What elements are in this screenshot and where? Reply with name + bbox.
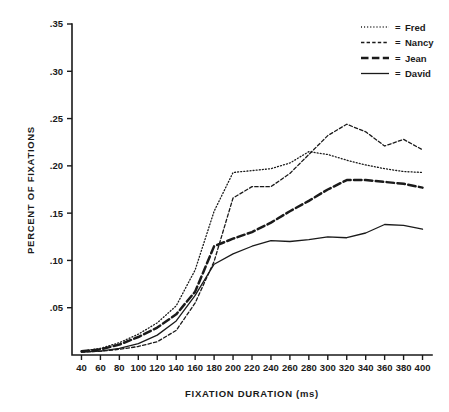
x-tick-label: 120 [149,362,165,373]
legend-equals-sign: = [395,68,401,79]
chart-legend: =Fred=Nancy=Jean=David [361,22,434,80]
y-tick-label: .15 [50,208,64,219]
y-tick-label: .20 [50,160,63,171]
legend-equals-sign: = [395,22,401,33]
y-tick-label: .25 [50,113,64,124]
x-tick-label: 200 [225,362,241,373]
chart-series-group [81,124,422,352]
x-tick-label: 260 [282,362,298,373]
legend-item-jean[interactable]: =Jean [361,53,427,64]
legend-item-fred[interactable]: =Fred [361,22,426,33]
legend-label-text: Jean [405,53,427,64]
x-tick-label: 400 [415,362,431,373]
fixation-duration-chart: .05.10.15.20.25.30.35 406080100120140160… [0,0,449,412]
series-line-david [81,224,422,352]
y-tick-label: .05 [50,302,64,313]
y-axis-tick-labels: .05.10.15.20.25.30.35 [50,18,64,313]
series-line-jean [81,180,422,351]
legend-item-david[interactable]: =David [361,68,431,79]
legend-label-text: David [405,68,431,79]
x-tick-label: 240 [263,362,279,373]
legend-label-text: Fred [405,22,426,33]
x-tick-label: 60 [95,362,106,373]
x-axis-tick-labels: 4060801001201401601802002202402602803003… [76,362,430,373]
x-tick-label: 360 [377,362,393,373]
x-tick-label: 320 [339,362,355,373]
x-tick-label: 100 [130,362,146,373]
legend-equals-sign: = [395,53,401,64]
x-tick-label: 140 [168,362,184,373]
y-axis-title: PERCENT OF FIXATIONS [25,126,36,254]
x-tick-label: 300 [320,362,336,373]
y-tick-label: .10 [50,255,63,266]
x-tick-label: 180 [206,362,222,373]
x-tick-label: 160 [187,362,203,373]
y-tick-label: .30 [50,66,63,77]
x-tick-label: 380 [396,362,412,373]
y-tick-label: .35 [50,18,64,29]
series-line-nancy [81,124,422,352]
x-tick-label: 340 [358,362,374,373]
x-tick-label: 40 [76,362,87,373]
legend-label-text: Nancy [405,37,434,48]
legend-equals-sign: = [395,37,401,48]
x-tick-label: 220 [244,362,260,373]
x-axis-title: FIXATION DURATION (ms) [185,388,319,399]
x-tick-label: 80 [114,362,125,373]
chart-axes [67,24,432,360]
legend-item-nancy[interactable]: =Nancy [361,37,434,48]
chart-plot-area: .05.10.15.20.25.30.35 406080100120140160… [0,0,449,412]
x-tick-label: 280 [301,362,317,373]
